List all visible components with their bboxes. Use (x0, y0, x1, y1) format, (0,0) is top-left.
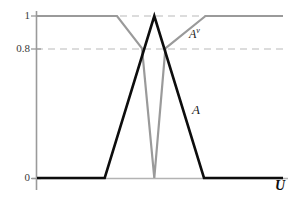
series-label-a-complement: Av (189, 27, 200, 40)
y-axis-tick-label-08: 0.8 (5, 43, 30, 54)
fuzzy-membership-chart: 1 0.8 0 Av A U (0, 0, 295, 201)
series-line-a (37, 16, 283, 178)
series-line-a-complement (37, 16, 283, 178)
x-axis-label: U (275, 179, 285, 193)
y-axis-tick-label-0: 0 (14, 172, 30, 183)
plot-canvas (0, 0, 295, 201)
series-label-a-complement-superscript: v (196, 26, 200, 35)
series-label-a: A (192, 103, 200, 116)
y-axis-tick-label-1: 1 (14, 10, 30, 21)
